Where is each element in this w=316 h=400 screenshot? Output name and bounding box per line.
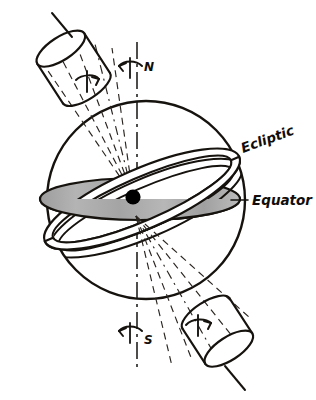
lower-cylinder-right-side <box>229 298 252 333</box>
upper-cylinder-axis-stub <box>52 13 72 37</box>
lower-cylinder-rotation-arrow <box>186 315 211 336</box>
lower-precession-cylinder <box>176 289 258 390</box>
upper-cylinder-left-side <box>37 64 63 103</box>
label-north-pole: N <box>144 60 154 74</box>
label-equator: Equator <box>252 192 313 208</box>
upper-cylinder-right-side <box>84 33 110 72</box>
lower-cylinder-axis-stub <box>225 366 245 390</box>
upper-precession-cylinder <box>31 13 116 113</box>
north-rotation-arrow <box>119 58 142 78</box>
precession-diagram: Ecliptic Equator N S <box>0 0 316 400</box>
earth-center-dot <box>125 189 140 204</box>
precession-diagram-canvas: Ecliptic Equator N S <box>0 0 316 400</box>
label-ecliptic: Ecliptic <box>239 122 296 156</box>
label-south-pole: S <box>144 333 153 347</box>
upper-cylinder-rotation-arrow <box>76 71 99 92</box>
south-rotation-arrow <box>119 323 142 343</box>
lower-cylinder-left-side <box>182 329 205 364</box>
upper-cylinder-top-face <box>31 24 90 74</box>
